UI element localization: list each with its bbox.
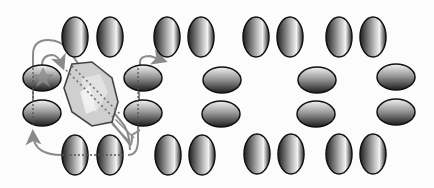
horizontal-molecule xyxy=(377,64,415,90)
arrow-bottom-left xyxy=(33,135,62,155)
vertical-molecule xyxy=(360,17,386,57)
diagram-canvas xyxy=(0,0,434,188)
vertical-molecule xyxy=(278,134,304,174)
vertical-molecule xyxy=(277,17,303,57)
guest-molecule xyxy=(64,62,134,142)
lattice-diagram xyxy=(0,0,434,188)
horizontal-molecule xyxy=(203,67,241,93)
vertical-molecule xyxy=(62,17,88,57)
horizontal-molecule xyxy=(202,101,240,127)
horizontal-molecule xyxy=(377,99,415,125)
vertical-molecule xyxy=(189,135,215,175)
vertical-molecule xyxy=(243,17,269,57)
vertical-molecule xyxy=(155,135,181,175)
vertical-molecule xyxy=(244,134,270,174)
horizontal-molecule xyxy=(23,100,61,126)
arrow-into-guest xyxy=(42,55,62,66)
vertical-molecule xyxy=(154,17,180,57)
vertical-molecule xyxy=(326,134,352,174)
horizontal-molecule xyxy=(124,65,162,91)
horizontal-molecule xyxy=(297,101,335,127)
vertical-molecule xyxy=(97,17,123,57)
horizontal-molecule xyxy=(298,67,336,93)
vertical-molecule xyxy=(360,134,386,174)
horizontal-molecule xyxy=(124,100,162,126)
vertical-molecule xyxy=(326,17,352,57)
vertical-molecule xyxy=(188,17,214,57)
